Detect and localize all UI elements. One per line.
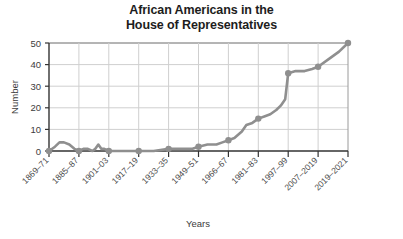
x-axis-ticks: [49, 151, 348, 157]
data-point-marker: [106, 148, 112, 154]
data-point-marker: [195, 143, 201, 149]
y-tick-label-10: 10: [30, 124, 41, 135]
y-tick-label-0: 0: [36, 146, 41, 157]
x-tick-label-2: 1901–03: [80, 155, 111, 186]
data-point-marker: [345, 40, 351, 46]
x-tick-label-6: 1966–67: [199, 155, 230, 186]
x-axis-tick-labels: 1869–71 1885–87 1901–03 1917–19 1933–35 …: [20, 155, 350, 192]
data-point-marker: [136, 148, 142, 154]
x-tick-label-5: 1949–51: [169, 155, 200, 186]
x-tick-label-1: 1885–87: [50, 155, 81, 186]
data-point-marker: [315, 64, 321, 70]
x-tick-label-3: 1917–19: [110, 155, 141, 186]
data-point-marker: [255, 115, 261, 121]
data-point-marker: [285, 70, 291, 76]
y-axis-label: Number: [9, 80, 20, 114]
x-axis-label: Years: [186, 218, 210, 229]
y-tick-label-40: 40: [30, 59, 41, 70]
y-tick-label-20: 20: [30, 102, 41, 113]
data-point-marker: [76, 148, 82, 154]
x-tick-label-7: 1981–83: [229, 155, 260, 186]
data-point-marker: [46, 148, 52, 154]
x-tick-label-4: 1933–35: [140, 155, 171, 186]
x-tick-label-0: 1869–71: [20, 155, 51, 186]
chart-figure: African Americans in the House of Repres…: [0, 0, 403, 239]
line-chart-plot: 50 40 30 20 10 0 Number 1869–71 1885–87: [0, 0, 403, 239]
data-point-marker: [225, 137, 231, 143]
y-tick-label-30: 30: [30, 81, 41, 92]
data-point-marker: [165, 146, 171, 152]
y-tick-label-50: 50: [30, 38, 41, 49]
y-axis-tick-labels: 50 40 30 20 10 0: [30, 38, 41, 157]
